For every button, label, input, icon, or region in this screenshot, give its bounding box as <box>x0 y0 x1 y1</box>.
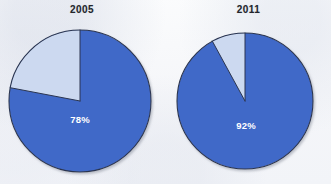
pie-label-2011: 92% <box>236 120 256 131</box>
pie-svg-2005: 78% <box>0 4 164 184</box>
pie-chart-2011: 2011 92% <box>166 4 331 184</box>
pie-svg-2011: 92% <box>166 4 331 184</box>
pie-chart-2005: 2005 78% <box>0 4 164 184</box>
pie-chart-figure: 2005 78% 2011 <box>0 0 331 184</box>
pie-label-2005: 78% <box>70 114 90 125</box>
